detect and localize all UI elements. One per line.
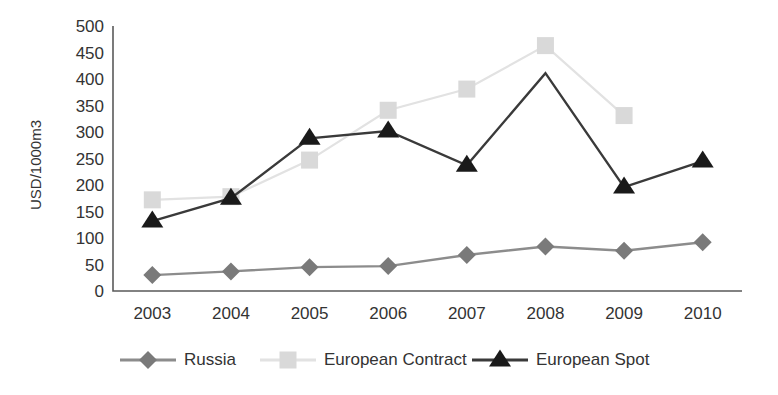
y-tick-label: 450 (76, 44, 104, 63)
y-axis-title: USD/1000m3 (27, 120, 44, 210)
legend-label: European Contract (324, 350, 467, 369)
y-tick-label: 250 (76, 150, 104, 169)
y-tick-label: 100 (76, 229, 104, 248)
legend-label: European Spot (536, 350, 650, 369)
y-tick-label: 50 (85, 256, 104, 275)
x-tick-label: 2007 (448, 304, 486, 323)
x-tick-label: 2005 (291, 304, 329, 323)
data-point-marker (380, 102, 397, 119)
x-tick-label: 2004 (212, 304, 250, 323)
data-point-marker (537, 37, 554, 54)
y-tick-label: 300 (76, 123, 104, 142)
line-chart: USD/1000m3 05010015020025030035040045050… (0, 0, 778, 395)
legend-item-european-contract[interactable]: European Contract (260, 350, 467, 369)
y-tick-label: 0 (95, 282, 104, 301)
legend-marker (280, 352, 297, 369)
y-tick-label: 350 (76, 97, 104, 116)
data-point-marker (144, 191, 161, 208)
y-tick-label: 500 (76, 17, 104, 36)
data-point-marker (458, 81, 475, 98)
y-tick-label: 400 (76, 70, 104, 89)
x-tick-label: 2010 (684, 304, 722, 323)
y-tick-label: 200 (76, 176, 104, 195)
x-tick-label: 2008 (527, 304, 565, 323)
legend-label: Russia (184, 350, 237, 369)
x-tick-label: 2003 (133, 304, 171, 323)
x-tick-label: 2006 (369, 304, 407, 323)
y-tick-label: 150 (76, 203, 104, 222)
data-point-marker (616, 107, 633, 124)
data-point-marker (301, 152, 318, 169)
x-tick-label: 2009 (605, 304, 643, 323)
chart-background (0, 0, 778, 395)
chart-legend: RussiaEuropean ContractEuropean Spot (120, 349, 650, 369)
